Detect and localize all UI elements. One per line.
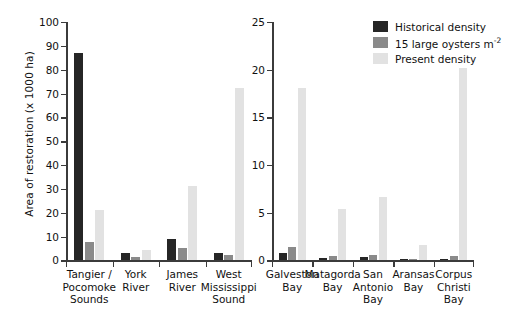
y-axis-tick-label: 40 <box>46 159 59 171</box>
y-axis-tick-label: 90 <box>46 40 59 52</box>
y-axis-tick-label: 0 <box>258 254 265 266</box>
bar-group <box>74 20 104 260</box>
x-axis-tick <box>473 262 474 267</box>
y-axis-tick <box>61 22 66 23</box>
bar-fifteen-large-oysters <box>329 256 337 261</box>
bar-historical <box>167 239 176 260</box>
y-axis-tick <box>61 46 66 47</box>
y-axis-tick-label: 60 <box>46 111 59 123</box>
bar-fifteen-large-oysters <box>85 242 94 261</box>
bar-historical <box>400 259 408 260</box>
y-axis-tick-label: 10 <box>252 159 265 171</box>
x-axis-tick <box>272 262 273 267</box>
bar-present <box>419 245 427 260</box>
y-axis-tick-label: 70 <box>46 88 59 100</box>
bar-fifteen-large-oysters <box>178 248 187 260</box>
y-axis-tick <box>61 165 66 166</box>
legend-swatch-historical-icon <box>373 21 388 32</box>
legend-label-fifteen: 15 large oysters m-2 <box>395 36 501 50</box>
x-axis-tick <box>353 262 354 267</box>
bar-fifteen-large-oysters <box>369 255 377 261</box>
x-axis-category-label: York River <box>122 268 149 293</box>
x-axis-category-label: James River <box>166 268 198 293</box>
bar-present <box>235 88 244 261</box>
y-axis-label: Area of restoration (x 1000 ha) <box>23 39 35 229</box>
legend-item-present: Present density <box>373 51 501 66</box>
y-axis-tick-label: 20 <box>252 64 265 76</box>
bar-fifteen-large-oysters <box>409 259 417 261</box>
y-axis-tick <box>267 70 272 71</box>
bar-present <box>379 197 387 260</box>
x-axis-tick <box>159 262 160 267</box>
x-axis-category-label: Corpus Christi Bay <box>435 268 472 306</box>
legend-swatch-fifteen-icon <box>373 37 388 48</box>
bar-fifteen-large-oysters <box>288 247 296 260</box>
bar-present <box>188 186 197 261</box>
bar-group <box>121 20 151 260</box>
y-axis-tick <box>61 70 66 71</box>
legend-superscript: -2 <box>494 36 501 45</box>
y-axis-line-right <box>272 22 274 262</box>
x-axis-tick <box>312 262 313 267</box>
y-axis-tick-label: 25 <box>252 16 265 28</box>
y-axis-tick-label: 10 <box>46 231 59 243</box>
y-axis-tick <box>61 141 66 142</box>
bar-group <box>214 20 244 260</box>
bar-historical <box>121 253 130 260</box>
bar-historical <box>214 253 223 260</box>
legend-swatch-present-icon <box>373 53 388 64</box>
bar-historical <box>440 259 448 261</box>
x-axis-tick <box>113 262 114 267</box>
x-axis-tick <box>393 262 394 267</box>
bar-fifteen-large-oysters <box>450 256 458 261</box>
y-axis-tick <box>61 94 66 95</box>
y-axis-tick <box>61 189 66 190</box>
x-axis-line-right <box>272 260 474 262</box>
y-axis-tick <box>267 213 272 214</box>
y-axis-tick <box>267 165 272 166</box>
y-axis-line-left <box>66 22 68 262</box>
bar-historical <box>360 257 368 260</box>
bar-historical <box>74 53 83 260</box>
legend: Historical density 15 large oysters m-2 … <box>373 19 501 67</box>
bar-present <box>142 250 151 260</box>
bar-present <box>338 209 346 260</box>
x-axis-tick <box>251 262 252 267</box>
legend-item-historical: Historical density <box>373 19 501 34</box>
y-axis-tick-label: 5 <box>258 207 265 219</box>
y-axis-tick-label: 80 <box>46 64 59 76</box>
legend-label-historical: Historical density <box>395 21 486 33</box>
bar-present <box>459 68 467 261</box>
x-axis-category-label: San Antonio Bay <box>353 268 393 306</box>
bar-historical <box>279 253 287 261</box>
y-axis-tick <box>267 117 272 118</box>
bar-group <box>279 20 306 260</box>
y-axis-tick-label: 20 <box>46 207 59 219</box>
y-axis-tick-label: 0 <box>52 254 59 266</box>
legend-label-present: Present density <box>395 53 476 65</box>
y-axis-tick-label: 30 <box>46 183 59 195</box>
y-axis-tick <box>61 117 66 118</box>
y-axis-tick-label: 100 <box>39 16 59 28</box>
x-axis-category-label: Tangier / Pocomoke Sounds <box>63 268 116 306</box>
y-axis-tick-label: 50 <box>46 135 59 147</box>
y-axis-tick <box>61 237 66 238</box>
x-axis-tick <box>206 262 207 267</box>
bar-fifteen-large-oysters <box>131 257 140 260</box>
x-axis-tick <box>434 262 435 267</box>
y-axis-tick <box>267 22 272 23</box>
bar-historical <box>319 258 327 261</box>
x-axis-category-label: West Mississippi Sound <box>201 268 257 306</box>
bar-chart-figure: Area of restoration (x 1000 ha) 01020304… <box>0 0 516 315</box>
y-axis-tick-label: 15 <box>252 111 265 123</box>
y-axis-tick <box>61 213 66 214</box>
bar-present <box>95 210 104 260</box>
bar-fifteen-large-oysters <box>224 255 233 260</box>
chart-panel-left: 0102030405060708090100Tangier / Pocomoke… <box>66 22 252 262</box>
bar-group <box>167 20 197 260</box>
x-axis-category-label: Aransas Bay <box>392 268 434 293</box>
bar-group <box>319 20 346 260</box>
x-axis-tick <box>66 262 67 267</box>
legend-item-fifteen-large-oysters: 15 large oysters m-2 <box>373 35 501 50</box>
bar-present <box>298 88 306 261</box>
